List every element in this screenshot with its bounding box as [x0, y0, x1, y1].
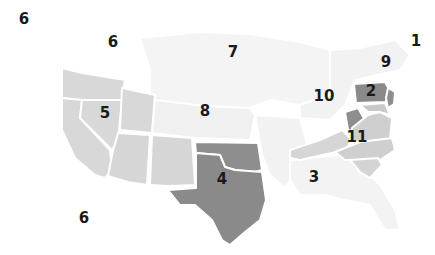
label-10: 10 — [314, 89, 335, 104]
label-8: 8 — [200, 104, 210, 119]
label-3: 3 — [309, 170, 319, 185]
state-new-mexico[interactable] — [150, 135, 195, 186]
label-2: 2 — [366, 84, 376, 99]
region-southeast[interactable] — [290, 155, 400, 230]
label-11: 11 — [347, 130, 368, 145]
label-6-south: 6 — [79, 211, 89, 226]
label-6-pacific-2: 6 — [108, 35, 118, 50]
label-1: 1 — [411, 34, 421, 49]
us-region-map — [0, 0, 435, 255]
label-7: 7 — [228, 45, 238, 60]
state-utah-idaho[interactable] — [120, 88, 155, 133]
label-4: 4 — [217, 172, 227, 187]
region-northern-plains[interactable] — [140, 32, 340, 108]
label-6-pacific-1: 6 — [19, 12, 29, 27]
state-oregon-washington[interactable] — [62, 68, 125, 100]
label-9: 9 — [381, 55, 391, 70]
label-5: 5 — [100, 106, 110, 121]
state-new-jersey-delaware[interactable] — [386, 88, 395, 108]
